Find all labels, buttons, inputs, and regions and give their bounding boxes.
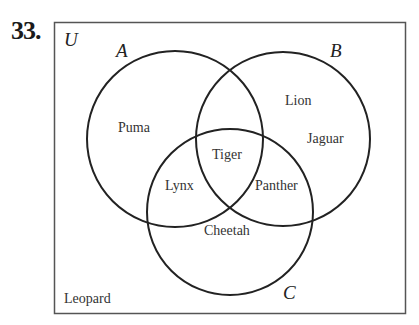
region-outside: Leopard — [64, 291, 111, 306]
set-a-circle — [87, 51, 263, 227]
venn-diagram: U A B C Puma Lion Jaguar Tiger Lynx Pant… — [0, 0, 419, 325]
region-a-only: Puma — [118, 120, 151, 135]
region-bc: Panther — [255, 178, 298, 193]
region-b-only-jaguar: Jaguar — [307, 131, 344, 146]
set-b-label: B — [330, 40, 342, 61]
set-b-circle — [196, 52, 370, 226]
universal-set-box — [55, 23, 406, 314]
set-c-label: C — [283, 282, 296, 303]
universe-label: U — [64, 29, 79, 50]
region-ac: Lynx — [165, 178, 194, 193]
region-b-only-lion: Lion — [285, 93, 311, 108]
region-abc: Tiger — [212, 147, 242, 162]
region-c-only: Cheetah — [204, 223, 250, 238]
set-a-label: A — [114, 40, 128, 61]
